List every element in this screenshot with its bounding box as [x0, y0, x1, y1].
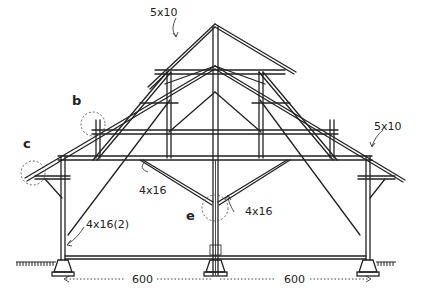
tie-beam-label: 4x16 — [139, 184, 167, 197]
king-post — [213, 26, 218, 275]
detail-label-c: c — [23, 136, 31, 151]
span-right-label: 600 — [284, 273, 305, 286]
leader-arrows — [67, 18, 383, 246]
eave-outriggers — [35, 103, 395, 198]
main-rafters — [25, 66, 405, 182]
detail-label-b: b — [72, 93, 81, 108]
upper-roof — [148, 24, 296, 89]
detail-circle-b — [81, 112, 105, 136]
ground-hatching — [16, 262, 396, 266]
roof-truss-diagram: 5x10 5x10 4x16 4x16 4x16(2) 600 600 b c … — [0, 0, 424, 303]
post-label: 4x16(2) — [86, 218, 129, 231]
span-left-label: 600 — [132, 273, 153, 286]
dimension-lines — [64, 276, 371, 282]
tie-beam — [58, 156, 372, 160]
right-rafter-label: 5x10 — [374, 120, 402, 133]
detail-label-e: e — [186, 208, 195, 223]
strut-label: 4x16 — [245, 205, 273, 218]
diagonal-braces — [68, 66, 360, 235]
mid-ties — [92, 130, 338, 134]
ridge-rafter-label: 5x10 — [150, 6, 178, 19]
